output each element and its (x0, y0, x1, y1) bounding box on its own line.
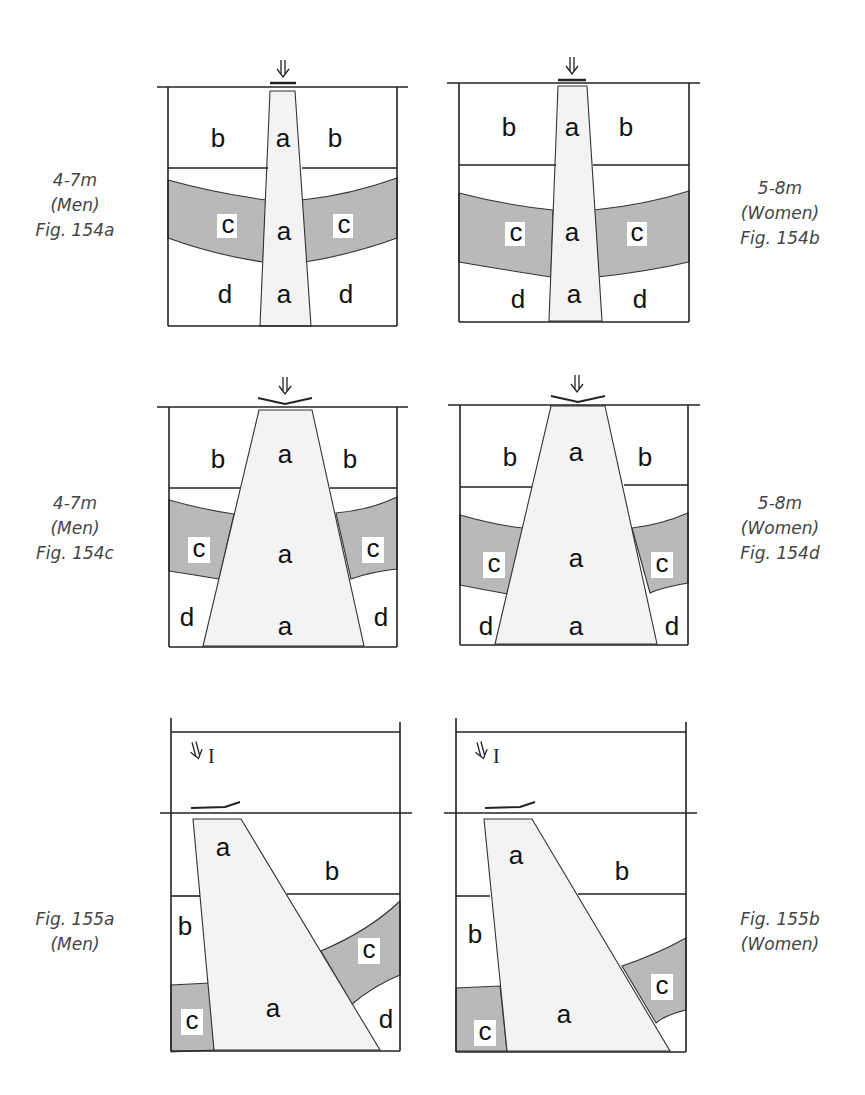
label-a: a (216, 832, 231, 862)
label-c: c (631, 217, 644, 247)
label-c: c (479, 1016, 492, 1046)
label-a: a (277, 279, 292, 309)
label-b: b (343, 444, 357, 474)
label-d: d (665, 611, 679, 641)
label-a: a (276, 123, 291, 153)
label-b: b (211, 123, 225, 153)
label-incidence: I (493, 745, 500, 767)
label-b: b (178, 911, 192, 941)
label-d: d (374, 602, 388, 632)
label-b: b (619, 112, 633, 142)
tilted-lens (485, 802, 535, 808)
label-c: c (656, 970, 669, 1000)
label-a: a (565, 112, 580, 142)
label-a: a (278, 611, 293, 641)
label-a: a (569, 543, 584, 573)
label-d: d (633, 284, 647, 314)
label-d: d (479, 611, 493, 641)
label-c: c (363, 934, 376, 964)
diagram-canvas: b a b c a c d a d b a b c a c d a d (0, 0, 865, 1095)
label-incidence: I (208, 745, 215, 767)
concave-lens (258, 398, 312, 404)
label-b: b (502, 112, 516, 142)
arrow-icon (279, 377, 291, 394)
label-d: d (379, 1004, 393, 1034)
figure-154a: b a b c a c d a d (157, 60, 408, 326)
label-d: d (218, 279, 232, 309)
label-a: a (278, 439, 293, 469)
label-a: a (567, 279, 582, 309)
label-a: a (509, 840, 524, 870)
label-a: a (569, 437, 584, 467)
tilted-lens (191, 802, 240, 808)
label-b: b (638, 442, 652, 472)
label-a: a (266, 993, 281, 1023)
arrow-icon (571, 375, 583, 392)
label-c: c (488, 548, 501, 578)
label-c: c (222, 209, 235, 239)
label-c: c (338, 209, 351, 239)
label-b: b (503, 442, 517, 472)
label-c: c (186, 1005, 199, 1035)
label-b: b (615, 856, 629, 886)
concave-lens (551, 396, 605, 402)
label-b: b (325, 856, 339, 886)
label-b: b (211, 444, 225, 474)
label-d: d (180, 602, 194, 632)
label-a: a (569, 611, 584, 641)
label-c: c (193, 533, 206, 563)
arrow-icon (566, 57, 578, 74)
label-c: c (656, 548, 669, 578)
label-c: c (367, 533, 380, 563)
figure-154b: b a b c a c d a d (447, 57, 700, 322)
figure-155b: I a b b c a c (444, 718, 697, 1052)
label-a: a (557, 999, 572, 1029)
label-b: b (328, 123, 342, 153)
label-a: a (277, 216, 292, 246)
label-d: d (339, 279, 353, 309)
figure-155a: I a b b c a c d (160, 718, 412, 1052)
oblique-arrow-icon (473, 740, 489, 760)
label-b: b (468, 919, 482, 949)
figure-154c: b a b c a c d a d (157, 377, 408, 647)
label-d: d (511, 284, 525, 314)
label-a: a (278, 539, 293, 569)
arrow-icon (277, 60, 289, 77)
figure-154d: b a b c a c d a d (448, 375, 700, 645)
oblique-arrow-icon (188, 740, 204, 760)
label-a: a (565, 217, 580, 247)
label-c: c (510, 217, 523, 247)
